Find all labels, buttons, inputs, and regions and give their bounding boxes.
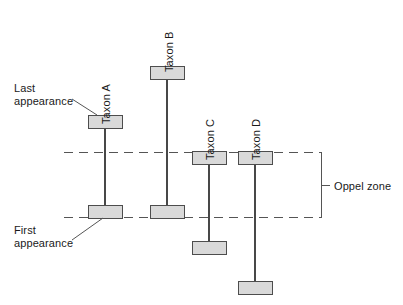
first-appearance-annotation-line2: appearance: [14, 237, 73, 250]
first-appearance-leader-line: [72, 218, 103, 240]
taxon-d-label: Taxon D: [250, 119, 262, 160]
taxon-a-label: Taxon A: [100, 84, 112, 124]
last-appearance-annotation-line2: appearance: [14, 95, 73, 108]
oppel-zone-range-diagram: Taxon A Taxon B Taxon C Taxon D Last app…: [0, 0, 403, 305]
oppel-zone-label: Oppel zone: [334, 180, 391, 192]
taxon-d-first-appearance-box: [239, 282, 273, 295]
first-appearance-annotation-line1: First: [14, 224, 36, 237]
taxon-b-label: Taxon B: [163, 32, 175, 72]
diagram-canvas: [0, 0, 403, 305]
last-appearance-annotation-line1: Last: [14, 82, 35, 95]
taxon-b-first-appearance-box: [151, 206, 185, 219]
last-appearance-leader-line: [72, 99, 97, 115]
taxon-c-label: Taxon C: [204, 119, 216, 160]
taxon-a-first-appearance-box: [89, 206, 123, 219]
taxon-c-first-appearance-box: [193, 242, 227, 255]
